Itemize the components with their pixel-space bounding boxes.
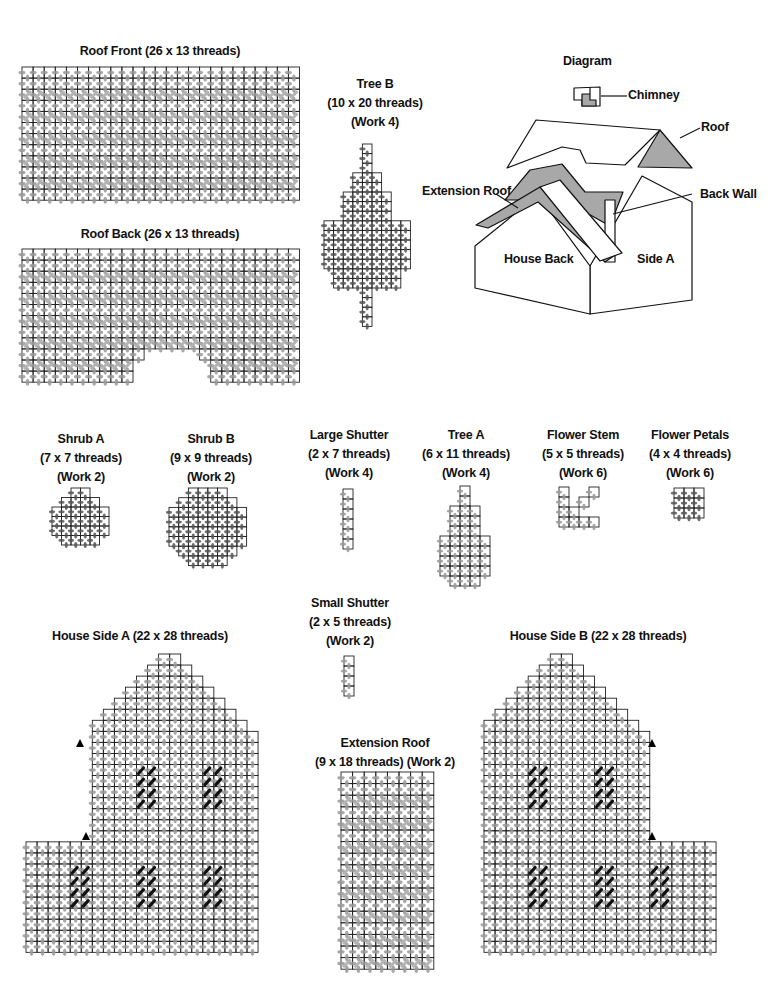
large-shutter-label-line: (Work 4) [308,464,390,483]
house-side-a-label-line: House Side A (22 x 28 threads) [52,627,228,646]
small-shutter-label-line: (2 x 5 threads) [309,613,391,632]
side-a-label: Side A [637,252,674,266]
house-back-label: House Back [504,252,574,266]
extension-roof-label-line: Extension Roof [315,734,455,753]
flower-stem-label-line: (5 x 5 threads) [542,445,624,464]
tree-b-label-line: Tree B [327,75,422,94]
house-side-b-label-line: House Side B (22 x 28 threads) [510,627,687,646]
shrub-b-label-line: (Work 2) [170,468,252,487]
small-shutter-label: Small Shutter(2 x 5 threads)(Work 2) [309,594,391,651]
house-side-b-label: House Side B (22 x 28 threads) [510,627,687,646]
flower-petals-label: Flower Petals(4 x 4 threads)(Work 6) [649,426,731,483]
flower-petals-label-line: (4 x 4 threads) [649,445,731,464]
tree-a-label: Tree A(6 x 11 threads)(Work 4) [422,426,510,483]
back-wall-label: Back Wall [700,187,757,201]
small-shutter-label-line: Small Shutter [309,594,391,613]
flower-stem-label-line: Flower Stem [542,426,624,445]
chimney-label: Chimney [628,88,679,102]
flower-stem-label: Flower Stem(5 x 5 threads)(Work 6) [542,426,624,483]
roof-front-label-line: Roof Front (26 x 13 threads) [80,42,240,61]
shrub-a-label-line: (Work 2) [40,468,122,487]
shrub-a-label-line: Shrub A [40,430,122,449]
shrub-b-label: Shrub B(9 x 9 threads)(Work 2) [170,430,252,487]
extension-roof-label: Extension Roof(9 x 18 threads) (Work 2) [315,734,455,772]
tree-b-label-line: (10 x 20 threads) [327,94,422,113]
shrub-b-label-line: (9 x 9 threads) [170,449,252,468]
shrub-a-label-line: (7 x 7 threads) [40,449,122,468]
large-shutter-label: Large Shutter(2 x 7 threads)(Work 4) [308,426,390,483]
tree-b-label-line: (Work 4) [327,113,422,132]
house-side-a-label: House Side A (22 x 28 threads) [52,627,228,646]
roof-back-label: Roof Back (26 x 13 threads) [81,225,240,244]
tree-a-label-line: Tree A [422,426,510,445]
flower-stem-label-line: (Work 6) [542,464,624,483]
tree-b-label: Tree B(10 x 20 threads)(Work 4) [327,75,422,132]
extension-roof-label: Extension Roof [422,184,511,198]
shrub-b-label-line: Shrub B [170,430,252,449]
chimney-icon [574,87,600,106]
roof-back-label-line: Roof Back (26 x 13 threads) [81,225,240,244]
shrub-a-label: Shrub A(7 x 7 threads)(Work 2) [40,430,122,487]
small-shutter-label-line: (Work 2) [309,632,391,651]
large-shutter-label-line: (2 x 7 threads) [308,445,390,464]
roof-label: Roof [701,120,729,134]
flower-petals-label-line: Flower Petals [649,426,731,445]
extension-roof-label-line: (9 x 18 threads) (Work 2) [315,753,455,772]
tree-a-label-line: (6 x 11 threads) [422,445,510,464]
large-shutter-label-line: Large Shutter [308,426,390,445]
tree-a-label-line: (Work 4) [422,464,510,483]
roof-front-label: Roof Front (26 x 13 threads) [80,42,240,61]
flower-petals-label-line: (Work 6) [649,464,731,483]
